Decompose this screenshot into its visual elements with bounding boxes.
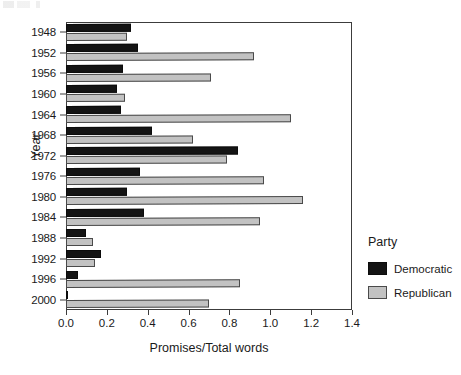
x-tick-mark (107, 310, 108, 315)
bar-group (66, 22, 352, 43)
bar-group (66, 166, 352, 187)
x-tick-mark (352, 310, 353, 315)
x-tick-label-1.2: 1.2 (303, 317, 319, 329)
y-tick-label-1996: 1996 (31, 273, 56, 285)
bar-democratic-1992 (66, 250, 101, 258)
y-tick-mark (60, 238, 66, 239)
bar-democratic-1996 (66, 271, 78, 279)
x-tick-mark (148, 310, 149, 315)
legend-item-republican[interactable]: Republican (368, 286, 460, 299)
bar-group (66, 248, 352, 269)
x-tick-label-0.0: 0.0 (58, 317, 74, 329)
bar-democratic-1968 (66, 126, 152, 134)
y-tick-mark (60, 52, 66, 53)
x-tick-mark (66, 310, 67, 315)
bar-republican-1996 (66, 279, 240, 288)
bar-republican-2000 (66, 300, 209, 309)
x-tick-label-0.8: 0.8 (221, 317, 237, 329)
bar-republican-1972 (66, 156, 227, 165)
y-tick-mark (60, 73, 66, 74)
y-tick-label-1980: 1980 (31, 191, 56, 203)
x-axis-title: Promises/Total words (66, 341, 352, 355)
bar-republican-1992 (66, 259, 95, 267)
y-tick-mark (60, 279, 66, 280)
bar-democratic-2000 (66, 291, 68, 299)
bar-democratic-1956 (66, 65, 123, 73)
legend-title: Party (368, 235, 460, 249)
scan-artifact (3, 1, 49, 8)
legend-swatch-republican-icon (368, 286, 387, 299)
bars-layer (66, 22, 352, 310)
y-tick-label-1952: 1952 (31, 47, 56, 59)
bar-democratic-1984 (66, 209, 144, 217)
bar-democratic-1964 (66, 106, 121, 114)
y-tick-mark (60, 114, 66, 115)
y-tick-mark (60, 155, 66, 156)
bar-group (66, 104, 352, 125)
bar-republican-1960 (66, 94, 125, 102)
y-tick-mark (60, 196, 66, 197)
legend-item-democratic[interactable]: Democratic (368, 262, 460, 275)
x-tick-label-1.0: 1.0 (262, 317, 278, 329)
bar-republican-1968 (66, 135, 193, 143)
bar-group (66, 63, 352, 84)
x-tick-label-1.4: 1.4 (344, 317, 360, 329)
bar-republican-1984 (66, 217, 260, 226)
y-tick-mark (60, 217, 66, 218)
x-tick-mark (270, 310, 271, 315)
x-tick-label-0.6: 0.6 (181, 317, 197, 329)
y-tick-mark (60, 32, 66, 33)
bar-democratic-1980 (66, 188, 127, 196)
bar-group (66, 187, 352, 208)
bar-group (66, 125, 352, 146)
bar-democratic-1972 (66, 147, 238, 156)
bar-group (66, 145, 352, 166)
bar-group (66, 269, 352, 290)
bar-democratic-1952 (66, 44, 138, 52)
x-tick-label-0.4: 0.4 (140, 317, 156, 329)
bar-republican-1976 (66, 176, 264, 185)
y-tick-mark (60, 176, 66, 177)
bar-democratic-1988 (66, 229, 86, 237)
bar-group (66, 43, 352, 64)
bar-democratic-1960 (66, 85, 117, 93)
y-tick-mark (60, 258, 66, 259)
legend-label-republican: Republican (394, 287, 452, 299)
x-tick-mark (189, 310, 190, 315)
bar-group (66, 228, 352, 249)
legend-label-democratic: Democratic (394, 263, 452, 275)
x-tick-mark (229, 310, 230, 315)
bar-chart-figure: 1948195219561960196419681972197619801984… (0, 0, 461, 375)
bar-republican-1956 (66, 73, 211, 82)
y-tick-label-1992: 1992 (31, 253, 56, 265)
y-tick-mark (60, 299, 66, 300)
y-tick-mark (60, 94, 66, 95)
bar-republican-1948 (66, 33, 127, 41)
bar-group (66, 84, 352, 105)
y-tick-label-1988: 1988 (31, 232, 56, 244)
legend-swatch-democratic-icon (368, 262, 387, 275)
bar-democratic-1948 (66, 24, 131, 32)
x-axis-ticks: 0.00.20.40.60.81.01.21.4 (66, 310, 352, 340)
bar-republican-1952 (66, 53, 254, 62)
y-tick-label-1956: 1956 (31, 67, 56, 79)
y-tick-mark (60, 135, 66, 136)
bar-group (66, 207, 352, 228)
bar-democratic-1976 (66, 168, 140, 176)
bar-republican-1988 (66, 238, 93, 246)
y-tick-label-2000: 2000 (31, 294, 56, 306)
y-axis-title: Year (29, 116, 43, 176)
legend: Party Democratic Republican (368, 235, 460, 310)
y-tick-label-1960: 1960 (31, 88, 56, 100)
y-tick-label-1984: 1984 (31, 211, 56, 223)
bar-republican-1980 (66, 196, 303, 205)
y-tick-label-1948: 1948 (31, 26, 56, 38)
bar-republican-1964 (66, 114, 291, 123)
x-tick-label-0.2: 0.2 (99, 317, 115, 329)
bar-group (66, 289, 352, 310)
x-tick-mark (311, 310, 312, 315)
